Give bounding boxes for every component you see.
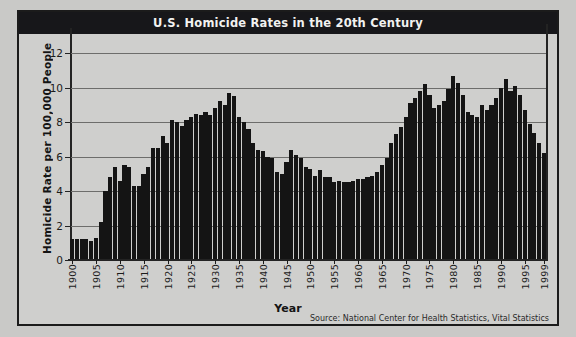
x-tick-label: 1950 xyxy=(305,264,316,289)
bar xyxy=(513,86,517,260)
bar xyxy=(132,186,136,260)
plot-area: 024681012 xyxy=(70,36,546,260)
y-tick-label: 8 xyxy=(56,116,63,128)
x-tick-label: 1955 xyxy=(329,264,340,289)
bar xyxy=(470,115,474,260)
bar xyxy=(280,174,284,260)
x-tick-label: 1985 xyxy=(472,264,483,289)
bar xyxy=(89,241,93,260)
source-note: Source: National Center for Health Stati… xyxy=(310,314,549,323)
bar xyxy=(108,177,112,260)
bar xyxy=(466,112,470,260)
bar xyxy=(80,239,84,260)
bar xyxy=(323,177,327,260)
bar xyxy=(161,136,165,260)
bar xyxy=(427,95,431,260)
bar xyxy=(389,143,393,260)
y-tick-label: 12 xyxy=(50,47,63,59)
bar xyxy=(265,157,269,260)
bar xyxy=(518,95,522,260)
x-tick-label: 1900 xyxy=(67,264,78,289)
bar xyxy=(294,155,298,260)
bar xyxy=(261,151,265,260)
bar xyxy=(318,170,322,260)
bar xyxy=(480,105,484,260)
bar xyxy=(485,110,489,260)
bar xyxy=(299,158,303,260)
bar xyxy=(446,89,450,260)
bar xyxy=(284,162,288,260)
chart-title-bar: U.S. Homicide Rates in the 20th Century xyxy=(19,12,557,34)
bar xyxy=(256,150,260,260)
x-tick-label: 1915 xyxy=(139,264,150,289)
x-tick-label: 1945 xyxy=(282,264,293,289)
bar xyxy=(432,108,436,260)
bar xyxy=(451,76,455,260)
bar xyxy=(99,222,103,260)
chart-panel: U.S. Homicide Rates in the 20th Century … xyxy=(17,10,559,326)
bar xyxy=(289,150,293,260)
x-axis-tick-labels: 1900190519101915192019251930193519401945… xyxy=(70,264,546,304)
bar xyxy=(308,169,312,260)
bar xyxy=(504,79,508,260)
bar xyxy=(122,165,126,260)
bar xyxy=(380,165,384,260)
bar xyxy=(532,133,536,261)
bar xyxy=(494,98,498,260)
bar xyxy=(180,126,184,260)
bar xyxy=(232,96,236,260)
y-tick-label: 4 xyxy=(56,185,63,197)
bar xyxy=(356,179,360,260)
bar xyxy=(370,176,374,260)
bar xyxy=(404,117,408,260)
x-tick-label: 1940 xyxy=(258,264,269,289)
bar xyxy=(361,179,365,260)
bar xyxy=(351,181,355,260)
bar xyxy=(365,177,369,260)
bar xyxy=(437,105,441,260)
bar xyxy=(137,186,141,260)
bar xyxy=(385,158,389,260)
x-tick-label: 1930 xyxy=(210,264,221,289)
bar-series xyxy=(70,36,546,260)
page-title: U.S. Homicide Rates in the 20th Century xyxy=(153,16,423,30)
chart-page: U.S. Homicide Rates in the 20th Century … xyxy=(0,0,576,337)
bar xyxy=(199,115,203,260)
bar xyxy=(313,176,317,260)
x-tick-label: 1975 xyxy=(424,264,435,289)
bar xyxy=(508,91,512,260)
bar xyxy=(75,239,79,260)
x-tick-label: 1910 xyxy=(115,264,126,289)
bar xyxy=(94,238,98,260)
bar xyxy=(213,108,217,260)
bar xyxy=(456,83,460,260)
x-tick-label: 1965 xyxy=(377,264,388,289)
bar xyxy=(237,117,241,260)
y-tick-label: 2 xyxy=(56,220,63,232)
bar xyxy=(413,98,417,260)
bar xyxy=(475,117,479,260)
bar xyxy=(499,88,503,260)
x-tick-label: 1999 xyxy=(539,264,550,289)
y-tick-label: 10 xyxy=(50,82,63,94)
bar xyxy=(251,143,255,260)
x-tick-label: 1920 xyxy=(163,264,174,289)
bar xyxy=(227,93,231,260)
x-tick-label: 1960 xyxy=(353,264,364,289)
x-tick-label: 1925 xyxy=(186,264,197,289)
bar xyxy=(203,112,207,260)
y-tick-label: 6 xyxy=(56,151,63,163)
y-axis-title: Homicide Rate per 100,000 People xyxy=(39,36,55,260)
x-tick-label: 1980 xyxy=(448,264,459,289)
x-tick-label: 1990 xyxy=(496,264,507,289)
x-tick-label: 1935 xyxy=(234,264,245,289)
bar xyxy=(528,124,532,260)
bar xyxy=(342,182,346,260)
bar xyxy=(84,239,88,260)
bar xyxy=(461,95,465,260)
bar xyxy=(146,167,150,260)
bar xyxy=(394,134,398,260)
bar xyxy=(399,127,403,260)
bar xyxy=(165,143,169,260)
bar xyxy=(175,122,179,260)
